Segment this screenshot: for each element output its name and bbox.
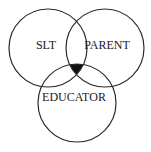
venn-diagram: SLT PARENT EDUCATOR	[0, 0, 151, 152]
label-slt: SLT	[36, 38, 57, 52]
label-parent: PARENT	[84, 38, 130, 52]
label-educator: EDUCATOR	[42, 90, 106, 104]
